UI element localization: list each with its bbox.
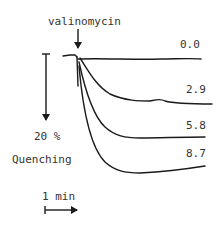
injection-spike — [77, 57, 78, 86]
series-label-0.0: 0.0 — [180, 38, 200, 51]
y-scale-label: Quenching — [12, 153, 72, 166]
trace-2.9 — [80, 58, 212, 104]
valinomycin-label: valinomycin — [48, 15, 121, 28]
baseline-trace — [63, 55, 77, 57]
series-label-5.8: 5.8 — [186, 119, 206, 132]
trace-0.0 — [78, 59, 201, 60]
series-label-2.9: 2.9 — [186, 83, 206, 96]
series-label-8.7: 8.7 — [186, 147, 206, 160]
time-scale-label: 1 min — [42, 190, 75, 203]
quenching-chart: valinomycin 20 % Quenching 0.0 2.9 5.8 8… — [0, 0, 222, 228]
y-scale-value: 20 % — [34, 130, 61, 143]
